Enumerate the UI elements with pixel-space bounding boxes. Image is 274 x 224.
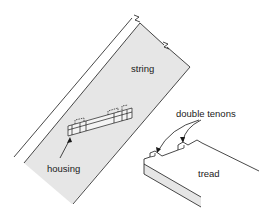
tenon-shoulder <box>150 153 155 157</box>
string-label: string <box>131 63 154 74</box>
double-tenons-label: double tenons <box>176 108 236 119</box>
tread-front-edge <box>144 164 201 197</box>
tread-label: tread <box>198 168 220 179</box>
housing-label: housing <box>47 163 80 174</box>
tread-edge-face <box>144 164 201 207</box>
tenon-shoulder <box>178 145 184 150</box>
stair-string-diagram: housing string double tenons tread <box>0 0 274 224</box>
break-mark-icon <box>134 15 140 22</box>
diagram-canvas: housing string double tenons tread <box>0 0 274 224</box>
tenon-leader-right <box>183 120 201 141</box>
tread-outline <box>144 140 259 171</box>
